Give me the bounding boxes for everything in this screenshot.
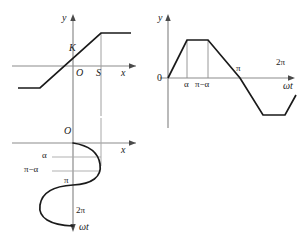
saturation-x-axis-label: x xyxy=(121,68,125,78)
input-x-axis-label: x xyxy=(121,145,125,155)
saturation-breakpoint-label: S xyxy=(96,68,101,78)
input-x-arrow xyxy=(129,140,136,146)
figure-canvas xyxy=(0,0,307,248)
output-alpha-label: α xyxy=(184,80,189,89)
input-panel xyxy=(12,118,136,232)
input-origin-label: O xyxy=(64,126,71,136)
saturation-x-arrow xyxy=(129,63,136,69)
output-pi-label: π xyxy=(236,64,241,73)
output-panel xyxy=(160,14,296,128)
saturation-y-axis-label: y xyxy=(62,13,66,23)
output-pi-minus-alpha-label: π−α xyxy=(195,80,209,89)
output-time-axis-label: ωt xyxy=(283,81,293,91)
output-origin-label: 0 xyxy=(157,73,162,83)
output-two-pi-label: 2π xyxy=(276,58,285,67)
saturation-panel xyxy=(12,14,136,118)
output-y-axis-label: y xyxy=(158,13,162,23)
input-sine-curve xyxy=(40,143,100,226)
input-pi-minus-alpha-label: π−α xyxy=(24,165,38,174)
saturation-origin-label: O xyxy=(76,68,83,78)
saturation-y-arrow xyxy=(70,14,75,21)
input-two-pi-label: 2π xyxy=(76,206,85,215)
input-time-axis-label: ωt xyxy=(79,222,89,232)
waveform-figure: y O x K S O x α π−α π 2π ωt y 0 α π−α π … xyxy=(0,0,307,248)
input-pi-label: π xyxy=(64,176,69,185)
input-alpha-label: α xyxy=(42,151,47,160)
saturation-slope-label: K xyxy=(69,43,76,53)
output-y-arrow xyxy=(165,14,170,21)
